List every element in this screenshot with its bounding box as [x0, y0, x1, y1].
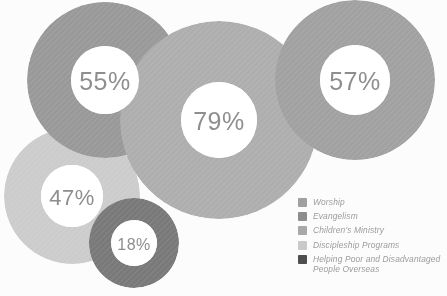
legend-item-discipleship-programs[interactable]: Discipleship Programs	[298, 240, 444, 250]
value-label-childrens-ministry: 57%	[329, 67, 381, 95]
legend-swatch-icon	[298, 255, 307, 264]
legend-item-worship[interactable]: Worship	[298, 197, 444, 207]
legend-item-helping-poor-overseas[interactable]: Helping Poor and Disadvantaged People Ov…	[298, 254, 444, 274]
legend-swatch-icon	[298, 198, 307, 207]
legend-item-label: Evangelism	[313, 211, 358, 221]
legend-item-evangelism[interactable]: Evangelism	[298, 211, 444, 221]
value-label-worship: 55%	[79, 67, 131, 95]
value-label-helping-poor-overseas: 18%	[117, 236, 151, 253]
legend-item-label: Discipleship Programs	[313, 240, 399, 250]
venn-bubble-chart: 55% 79% 57% 47% 18% Worship Evangelism C…	[0, 0, 447, 296]
chart-legend: Worship Evangelism Children's Ministry D…	[298, 197, 444, 278]
legend-swatch-icon	[298, 226, 307, 235]
legend-swatch-icon	[298, 241, 307, 250]
value-label-evangelism: 79%	[193, 107, 245, 135]
legend-item-label: Worship	[313, 197, 345, 207]
legend-item-label: Helping Poor and Disadvantaged People Ov…	[313, 254, 440, 274]
legend-item-label: Children's Ministry	[313, 225, 384, 235]
legend-swatch-icon	[298, 212, 307, 221]
legend-item-childrens-ministry[interactable]: Children's Ministry	[298, 225, 444, 235]
value-label-discipleship-programs: 47%	[49, 185, 95, 210]
